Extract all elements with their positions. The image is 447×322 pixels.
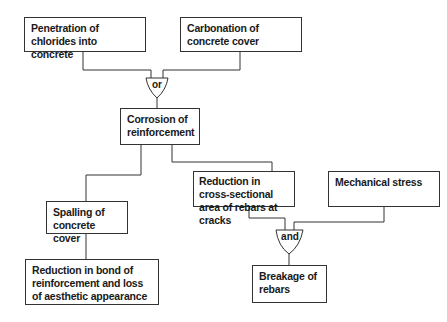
node-reduction-bond: Reduction in bond of reinforcement and l… [25,259,159,305]
node-label: Carbonation of concrete cover [187,22,259,47]
node-mechanical-stress: Mechanical stress [328,171,440,207]
and-gate-label: and [279,231,301,242]
node-label: Breakage of rebars [259,270,317,295]
or-gate-label: or [147,79,167,90]
node-chlorides: Penetration of chlorides into concrete [24,17,146,52]
node-label: Mechanical stress [335,176,422,188]
node-carbonation: Carbonation of concrete cover [180,17,302,52]
node-reduction-area: Reduction in cross-sectional area of reb… [193,171,295,207]
node-corrosion: Corrosion of reinforcement [120,108,200,145]
node-label: Corrosion of reinforcement [127,113,194,138]
node-breakage: Breakage of rebars [252,265,327,303]
node-label: Reduction in bond of reinforcement and l… [32,264,147,302]
node-spalling: Spalling of concrete cover [46,201,128,234]
